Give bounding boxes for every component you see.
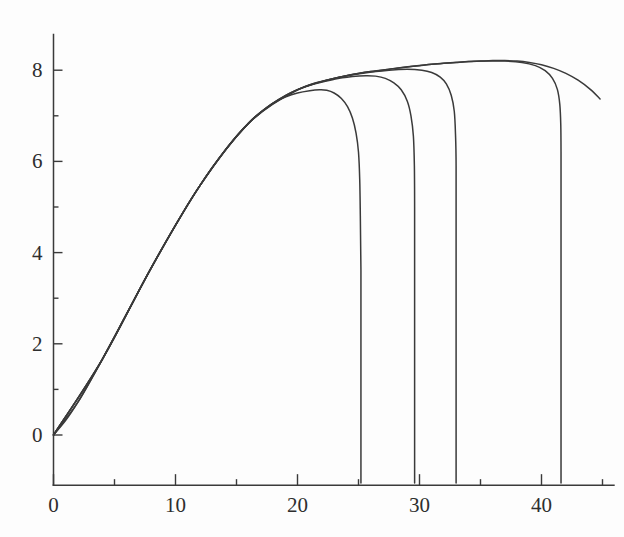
- y-tick-label: 0: [32, 425, 43, 446]
- x-tick-label: 10: [165, 495, 186, 516]
- plot-area: [0, 0, 624, 537]
- x-tick-label: 0: [48, 495, 59, 516]
- series-curve-branch-4: [54, 61, 562, 483]
- figure-canvas: 02468 010203040: [0, 0, 624, 537]
- y-tick-label: 4: [32, 242, 43, 263]
- x-tick-label: 40: [531, 495, 552, 516]
- y-tick-label: 6: [32, 151, 43, 172]
- series-curve-branch-1: [54, 90, 361, 483]
- axes-group: [53, 34, 615, 485]
- y-tick-label: 8: [32, 60, 43, 81]
- y-tick-label: 2: [32, 333, 43, 354]
- x-tick-label: 20: [287, 495, 308, 516]
- series-group: [54, 61, 601, 483]
- series-curve-branch-3: [54, 69, 457, 483]
- x-tick-label: 30: [409, 495, 430, 516]
- series-curve-envelope: [54, 61, 601, 435]
